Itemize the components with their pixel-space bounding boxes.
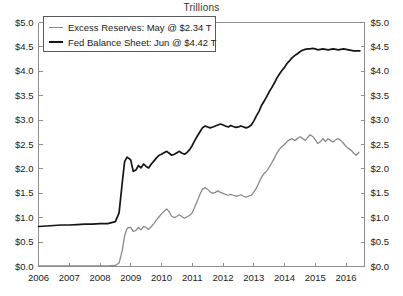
y-axis-label-right: $4.5 [371,41,403,52]
y-axis-label-left: $3.0 [0,114,34,125]
x-axis-label: 2015 [298,272,332,283]
x-axis-label: 2007 [52,272,86,283]
y-axis-label-left: $4.5 [0,41,34,52]
y-axis-label-right: $4.0 [371,65,403,76]
data-series-excess-reserves [39,135,359,266]
y-axis-label-right: $2.5 [371,139,403,150]
x-axis-label: 2016 [329,272,363,283]
x-axis-label: 2012 [206,272,240,283]
y-axis-label-left: $1.5 [0,187,34,198]
y-axis-label-right: $0.0 [371,261,403,272]
y-axis-label-right: $0.5 [371,236,403,247]
chart-legend: Excess Reserves: May @ $2.34 T Fed Balan… [43,16,216,52]
legend-swatch-excess-reserves [49,27,63,28]
x-axis-label: 2010 [145,272,179,283]
legend-swatch-fed-balance-sheet [49,41,63,43]
y-axis-label-left: $1.0 [0,212,34,223]
x-axis-label: 2006 [22,272,56,283]
series-layer [39,48,360,266]
x-axis-label: 2011 [175,272,209,283]
y-axis-label-left: $0.0 [0,261,34,272]
y-axis-label-left: $2.0 [0,163,34,174]
y-axis-label-right: $3.5 [371,90,403,101]
legend-label-excess-reserves: Excess Reserves: May @ $2.34 T [68,22,212,33]
y-axis-label-right: $3.0 [371,114,403,125]
y-axis-label-left: $5.0 [0,17,34,28]
y-axis-label-left: $4.0 [0,65,34,76]
legend-item-excess-reserves: Excess Reserves: May @ $2.34 T [49,20,212,34]
axes-layer [39,23,365,267]
y-axis-label-right: $1.0 [371,212,403,223]
chart-container: Trillions $0.0$0.0$0.5$0.5$1.0$1.0$1.5$1… [0,0,403,296]
x-axis-label: 2013 [237,272,271,283]
y-axis-label-left: $2.5 [0,139,34,150]
y-axis-label-right: $2.0 [371,163,403,174]
legend-item-fed-balance-sheet: Fed Balance Sheet: Jun @ $4.42 T [49,35,216,49]
x-axis-label: 2014 [268,272,302,283]
x-axis-label: 2008 [83,272,117,283]
y-axis-label-left: $3.5 [0,90,34,101]
y-axis-label-left: $0.5 [0,236,34,247]
legend-label-fed-balance-sheet: Fed Balance Sheet: Jun @ $4.42 T [68,37,216,48]
y-axis-label-right: $1.5 [371,187,403,198]
y-axis-label-right: $5.0 [371,17,403,28]
x-axis-label: 2009 [114,272,148,283]
data-series-fed-balance-sheet [39,48,360,226]
